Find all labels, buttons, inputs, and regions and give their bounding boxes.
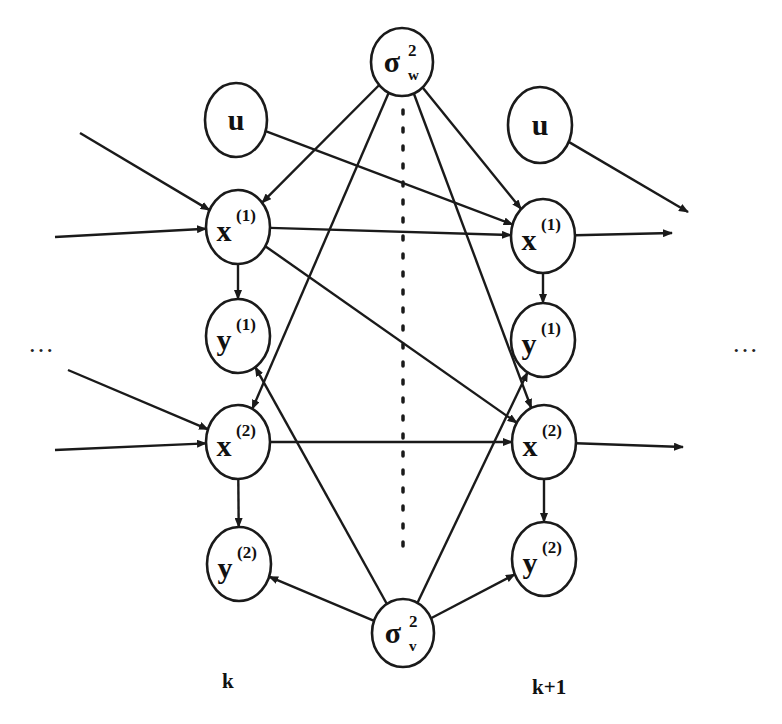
node-superscript: (1) [236, 315, 256, 334]
node-symbol: σ [384, 45, 401, 78]
edge-u-k-to-x1-k1 [266, 131, 513, 224]
node-u-k1: u [508, 87, 572, 163]
node-superscript: (1) [541, 319, 561, 338]
node-superscript: (2) [237, 543, 257, 562]
node-symbol: y [522, 327, 537, 360]
ellipsis-left: … [28, 329, 56, 358]
edge-u-k1-to-external-right-1 [569, 142, 688, 212]
node-circle [372, 599, 434, 667]
node-symbol: y [217, 323, 232, 356]
edge-sigma-w-to-x1-k [262, 85, 379, 203]
edge-x1-k-to-x1-k1 [270, 228, 511, 235]
node-superscript: (1) [236, 206, 256, 225]
node-y1-k1: y(1) [511, 303, 575, 377]
node-x1-k1: x(1) [511, 199, 575, 273]
node-superscript: (2) [542, 421, 562, 440]
edge-external-left-1-to-x1-k [80, 133, 210, 210]
time-label-k-plus-1: k+1 [532, 675, 566, 699]
node-symbol: x [522, 223, 537, 256]
edge-external-left-3-to-x2-k [68, 370, 208, 429]
node-symbol: u [532, 108, 549, 141]
node-superscript: (2) [542, 538, 562, 557]
dbn-diagram: σ2wuux(1)x(1)y(1)y(1)x(2)x(2)y(2)y(2)σ2v… [0, 0, 782, 724]
time-label-k: k [222, 669, 234, 693]
node-superscript: (1) [541, 215, 561, 234]
edge-sigma-v-to-y1-k1 [417, 372, 527, 603]
node-x1-k: x(1) [206, 190, 270, 264]
node-x2-k1: x(2) [512, 405, 576, 479]
node-superscript: (2) [236, 421, 256, 440]
node-subscript: v [409, 638, 417, 654]
nodes-layer: σ2wuux(1)x(1)y(1)y(1)x(2)x(2)y(2)y(2)σ2v [205, 28, 576, 667]
node-superscript: 2 [409, 612, 418, 631]
edge-external-left-2-to-x1-k [55, 229, 206, 237]
node-y2-k: y(2) [207, 527, 271, 601]
node-y1-k: y(1) [206, 299, 270, 373]
edge-sigma-v-to-y2-k [269, 577, 374, 621]
edge-external-left-4-to-x2-k [55, 443, 206, 450]
node-circle [371, 28, 433, 96]
node-sigma-v: σ2v [372, 599, 434, 667]
node-symbol: y [523, 546, 538, 579]
node-y2-k1: y(2) [512, 522, 576, 596]
edge-x1-k1-to-external-right-2 [575, 233, 672, 235]
node-u-k: u [205, 83, 267, 157]
node-symbol: x [523, 429, 538, 462]
ellipsis-right: … [732, 329, 760, 358]
node-symbol: x [217, 214, 232, 247]
node-symbol: x [217, 429, 232, 462]
node-symbol: σ [385, 616, 402, 649]
edge-sigma-v-to-y1-k [255, 367, 387, 604]
node-subscript: w [408, 67, 419, 83]
edge-sigma-v-to-y2-k1 [431, 574, 515, 618]
edges-layer [55, 85, 688, 621]
edge-x1-k-to-x2-k1 [265, 246, 516, 423]
node-sigma-w: σ2w [371, 28, 433, 96]
node-x2-k: x(2) [206, 405, 270, 479]
node-superscript: 2 [408, 41, 417, 60]
edge-sigma-w-to-x1-k1 [423, 87, 521, 209]
edge-x2-k1-to-external-right-3 [576, 443, 683, 447]
node-symbol: y [218, 551, 233, 584]
node-symbol: u [228, 103, 245, 136]
